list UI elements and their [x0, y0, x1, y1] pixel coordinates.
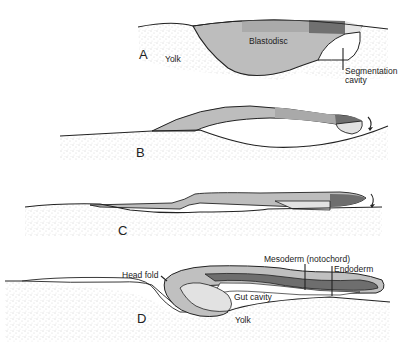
endoderm-label: Endoderm [334, 264, 373, 274]
blastoderm-b-lighter [275, 107, 336, 124]
gut-cavity-label: Gut cavity [234, 292, 273, 302]
rotation-arrow-b [368, 117, 371, 128]
stage-label-c: C [118, 223, 127, 238]
mesoderm-label: Mesoderm (notochord) [264, 254, 350, 264]
stage-b: B [60, 106, 388, 160]
segmentation-cavity-label-2: cavity [345, 75, 367, 85]
embryo-diagram: A Yolk Blastodisc Segmentation cavity B … [0, 0, 410, 342]
blastodisc-band-light [242, 20, 309, 32]
head-fold-label: Head fold [122, 270, 159, 280]
yolk-region-b [60, 126, 388, 160]
stage-label-b: B [136, 145, 145, 160]
rotation-arrow-c [371, 194, 373, 205]
stage-a: A Yolk Blastodisc Segmentation cavity [138, 20, 398, 85]
yolk-label-a: Yolk [165, 54, 182, 64]
yolk-label-d: Yolk [235, 315, 252, 325]
stage-d: Head fold Mesoderm (notochord) Endoderm … [5, 254, 390, 342]
arrow-head-b [368, 127, 373, 131]
blastodisc-label: Blastodisc [249, 36, 288, 46]
stage-label-d: D [137, 311, 146, 326]
stage-c: C [25, 192, 382, 238]
stage-label-a: A [139, 47, 148, 62]
